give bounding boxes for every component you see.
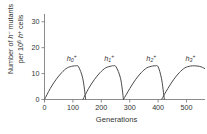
x-tick-label: 0	[43, 103, 47, 112]
y-tick-label: 0	[36, 95, 40, 104]
y-axis-ticks: 0102030	[32, 17, 45, 104]
y-tick-label: 30	[32, 17, 40, 26]
curve-h3+	[162, 66, 205, 100]
curve-label-h2+: h2+	[146, 53, 156, 63]
plot-area: 0102030 0100200300400500 h0+h1+h2+h3+	[0, 0, 207, 134]
y-axis-title-line-1: Number of h− mutants	[5, 4, 15, 74]
x-tick-label: 500	[181, 103, 193, 112]
curve-label-h1+: h1+	[104, 53, 114, 63]
curve-h2+	[123, 66, 164, 100]
curve-label-h0+: h0+	[67, 53, 77, 63]
y-axis-title: Number of h− mutants per 106 h+ cells	[0, 0, 30, 85]
x-tick-label: 400	[152, 103, 164, 112]
x-axis-title-text: Generations	[70, 115, 137, 124]
data-curves	[45, 66, 206, 100]
y-axis-title-line-2: per 106 h+ cells	[15, 15, 25, 64]
y-tick-label: 10	[32, 69, 40, 78]
x-axis-title: Generations	[0, 115, 207, 124]
curve-h1+	[83, 66, 124, 100]
x-axis-ticks: 0100200300400500	[43, 100, 193, 113]
x-tick-label: 100	[67, 103, 79, 112]
x-tick-label: 200	[95, 103, 107, 112]
y-tick-label: 20	[32, 43, 40, 52]
curve-label-h3+: h3+	[185, 53, 195, 63]
curve-h0+	[45, 66, 86, 100]
curve-labels: h0+h1+h2+h3+	[67, 53, 196, 63]
x-tick-label: 300	[124, 103, 136, 112]
chart-figure: Number of h− mutants per 106 h+ cells 01…	[0, 0, 207, 134]
